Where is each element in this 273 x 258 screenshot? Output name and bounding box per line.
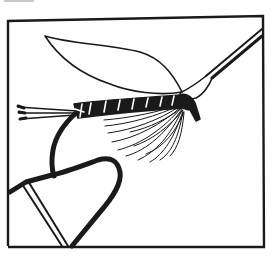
illustration-svg [0,0,273,258]
vise-jaw [10,159,120,246]
tail [18,106,77,119]
hackle-pliers [180,29,262,99]
fly-illustration: Wet fly tied on a hook held in a fly-tyi… [0,0,273,258]
wing [45,36,182,94]
